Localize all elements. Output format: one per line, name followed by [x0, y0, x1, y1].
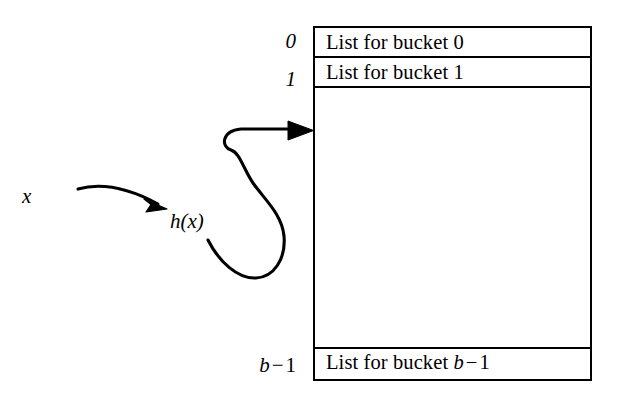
bucket-row-last-suffix: 1: [479, 352, 489, 373]
input-key-label: x: [22, 186, 31, 207]
arrow-x-to-hx-icon: [78, 186, 167, 212]
hash-function-close: ): [197, 209, 204, 233]
diagram-canvas: 0 1 b−1 List for bucket 0 List for bucke…: [0, 0, 624, 403]
bucket-row-1-text: List for bucket 1: [326, 62, 464, 83]
bucket-row-last-var: b: [453, 352, 463, 373]
bucket-index-1: 1: [210, 69, 296, 90]
hash-function-h: h(: [170, 209, 188, 233]
bucket-index-last-minus: −: [270, 353, 286, 377]
bucket-row-last-prefix: List for bucket: [326, 352, 448, 373]
input-key-text: x: [22, 184, 31, 208]
table-row: List for bucket b−1: [315, 347, 590, 376]
table-row-empty: [315, 88, 590, 347]
bucket-index-last-var: b: [259, 353, 270, 377]
bucket-index-0: 0: [210, 31, 296, 52]
bucket-index-last: b−1: [180, 355, 296, 376]
bucket-row-0-text: List for bucket 0: [326, 32, 464, 53]
hash-function-arg: x: [188, 209, 197, 233]
bucket-index-last-num: 1: [286, 353, 297, 377]
table-row: List for bucket 0: [315, 28, 590, 58]
arrow-hx-to-bucket-icon: [208, 121, 314, 278]
bucket-index-0-text: 0: [286, 29, 297, 53]
bucket-row-last-minus: −: [464, 352, 480, 373]
bucket-table: List for bucket 0 List for bucket 1 List…: [313, 26, 592, 381]
hash-function-label: h(x): [170, 211, 204, 232]
table-row: List for bucket 1: [315, 58, 590, 88]
bucket-index-1-text: 1: [286, 67, 297, 91]
